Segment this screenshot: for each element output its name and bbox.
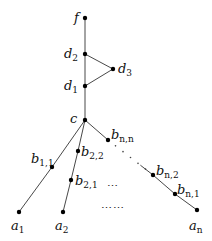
- ellipsis-dot: [130, 157, 132, 159]
- label-a1: a1: [11, 218, 25, 235]
- ellipsis-dot: [115, 145, 117, 147]
- label-c: c: [70, 111, 78, 126]
- label-d1: d1: [64, 78, 78, 95]
- label-f: f: [73, 10, 81, 25]
- node-bn2: [151, 173, 155, 177]
- label-d3: d3: [118, 61, 132, 78]
- edge-b21-a2: [63, 180, 71, 212]
- edge-b11-a1: [19, 167, 52, 212]
- ellipsis-dot: [137, 163, 139, 165]
- node-b22: [76, 149, 80, 153]
- tree-diagram: fd2d3d1cbn,nb2,2b1,1b2,1bn,2bn,1a1a2an ⋯…: [0, 0, 212, 241]
- node-c: [83, 118, 87, 122]
- label-bnn: bn,n: [111, 127, 134, 144]
- edge-d3-d1: [85, 69, 113, 86]
- label-a2: a2: [55, 218, 69, 235]
- label-d2: d2: [64, 46, 78, 63]
- node-f: [83, 16, 87, 20]
- ellipsis-dot: [122, 151, 124, 153]
- node-a1: [17, 210, 21, 214]
- node-b21: [69, 178, 73, 182]
- ellipsis-text: ⋯: [107, 180, 119, 193]
- node-d1: [83, 84, 87, 88]
- ellipsis-dot: [145, 168, 147, 170]
- node-d3: [111, 67, 115, 71]
- ellipsis-text: ⋯⋯: [101, 202, 125, 215]
- node-an: [195, 208, 199, 212]
- label-an: an: [189, 218, 203, 235]
- node-d2: [83, 52, 87, 56]
- ellipsis-marks: ⋯⋯⋯: [101, 180, 125, 215]
- edge-c-bnn: [85, 120, 108, 140]
- label-bn1: bn,1: [177, 182, 200, 199]
- node-bnn: [106, 138, 110, 142]
- label-b11: b1,1: [31, 151, 54, 168]
- node-a2: [61, 210, 65, 214]
- edge-to-bn2: [140, 165, 153, 175]
- label-bn2: bn,2: [156, 163, 179, 180]
- label-b22: b2,2: [81, 144, 104, 161]
- label-b21: b2,1: [75, 173, 98, 190]
- edge-d2-d3: [85, 54, 113, 69]
